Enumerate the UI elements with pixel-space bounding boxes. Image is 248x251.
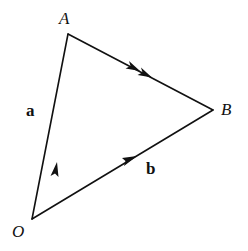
vector-label-b: b	[146, 160, 155, 177]
point-label-O: O	[12, 223, 24, 240]
point-label-B: B	[221, 101, 231, 118]
arrowhead-ab-2-icon	[138, 68, 153, 78]
arrowhead-a-icon	[51, 162, 59, 177]
edge-OA	[32, 34, 68, 219]
edge-OB	[32, 110, 213, 219]
vector-label-a: a	[26, 102, 35, 119]
arrowhead-b-icon	[122, 156, 137, 166]
edge-AB	[68, 34, 213, 110]
point-label-A: A	[59, 10, 69, 27]
vector-diagram	[0, 0, 248, 251]
